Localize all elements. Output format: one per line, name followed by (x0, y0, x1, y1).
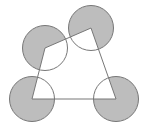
quadrilateral-exterior-angle-diagram (0, 0, 143, 133)
